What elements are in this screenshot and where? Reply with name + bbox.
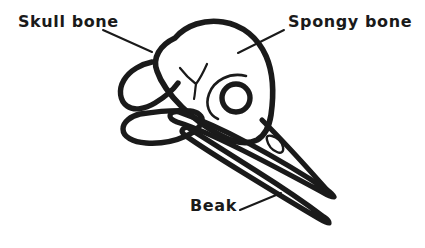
eye-socket-ring [222, 84, 250, 112]
upper-mandible-outline [170, 112, 334, 197]
label-beak: Beak [190, 198, 237, 214]
bird-skull-diagram: Skull bone Spongy bone Beak [0, 0, 425, 248]
quadrate-loop-outline [120, 62, 178, 109]
leader-line-beak [240, 193, 281, 210]
leader-line-skull-bone [103, 30, 152, 52]
suture-mark-y [180, 64, 207, 99]
label-spongy-bone: Spongy bone [288, 14, 412, 30]
label-skull-bone: Skull bone [18, 14, 119, 30]
